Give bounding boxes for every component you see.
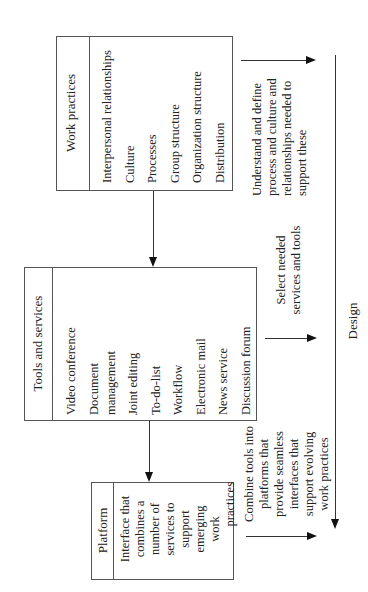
tool-item: To-do-list bbox=[145, 269, 168, 415]
work-practices-list: Interpersonal relationships Culture Proc… bbox=[96, 33, 231, 183]
work-practice-item: Culture bbox=[119, 33, 142, 183]
platform-line: combines a bbox=[133, 482, 148, 576]
annotation-line: provide seamless bbox=[272, 424, 287, 524]
tool-item: Video conference bbox=[60, 269, 83, 415]
platform-description: Interface that combines a number of serv… bbox=[118, 482, 238, 576]
annotation-line: work practices bbox=[317, 424, 332, 524]
platform-divider bbox=[113, 483, 114, 579]
tools-services-divider bbox=[52, 268, 53, 420]
arrow-tools-to-platform-line bbox=[149, 421, 150, 473]
platform-line: practices bbox=[223, 482, 238, 576]
select-annotation: Select needed services and tools bbox=[274, 215, 304, 325]
platform-line: number of bbox=[148, 482, 163, 576]
arrow-combine-line bbox=[246, 536, 308, 537]
design-label: Design bbox=[345, 296, 360, 346]
annotation-line: services and tools bbox=[289, 215, 304, 325]
annotation-line: relationships needed to bbox=[280, 71, 295, 196]
arrow-right-icon bbox=[307, 532, 317, 540]
work-practice-item: Distribution bbox=[209, 33, 232, 183]
tool-item: Joint editing bbox=[122, 269, 145, 415]
platform-line: support bbox=[178, 482, 193, 576]
platform-line: work bbox=[208, 482, 223, 576]
work-practice-item: Organization structure bbox=[186, 33, 209, 183]
tool-item: News service bbox=[212, 269, 235, 415]
design-timeline-line bbox=[335, 55, 336, 521]
tool-item: Workflow bbox=[167, 269, 190, 415]
tool-item: Document bbox=[83, 269, 100, 415]
work-practices-divider bbox=[89, 37, 90, 190]
combine-annotation: Combine tools into platforms that provid… bbox=[242, 424, 332, 524]
annotation-line: Select needed bbox=[274, 215, 289, 325]
work-practice-item: Processes bbox=[141, 33, 164, 183]
platform-line: Interface that bbox=[118, 482, 133, 576]
annotation-line: support evolving bbox=[302, 424, 317, 524]
annotation-line: process and culture and bbox=[265, 71, 280, 196]
work-practice-item: Group structure bbox=[164, 33, 187, 183]
arrow-work-to-tools-line bbox=[153, 191, 154, 258]
platform-title: Platform bbox=[95, 482, 110, 579]
annotation-line: Understand and define bbox=[250, 71, 265, 196]
arrow-select-line bbox=[265, 338, 309, 339]
tool-item: Electronic mail bbox=[190, 269, 213, 415]
work-practices-title: Work practices bbox=[63, 36, 78, 190]
annotation-line: Combine tools into bbox=[242, 424, 257, 524]
tool-item: management bbox=[100, 269, 123, 415]
arrow-down-icon bbox=[331, 519, 339, 529]
work-practice-item: Interpersonal relationships bbox=[96, 33, 119, 183]
platform-line: emerging bbox=[193, 482, 208, 576]
annotation-line: support these bbox=[295, 71, 310, 196]
arrow-right-icon bbox=[306, 56, 316, 64]
arrow-understand-line bbox=[241, 60, 307, 61]
tool-item: Discussion forum bbox=[235, 269, 258, 415]
understand-annotation: Understand and define process and cultur… bbox=[250, 71, 310, 196]
annotation-line: interfaces that bbox=[287, 424, 302, 524]
arrow-down-icon bbox=[149, 257, 157, 267]
arrow-down-icon bbox=[145, 472, 153, 482]
annotation-line: platforms that bbox=[257, 424, 272, 524]
tools-services-title: Tools and services bbox=[30, 267, 45, 420]
platform-line: services to bbox=[163, 482, 178, 576]
arrow-right-icon bbox=[307, 334, 317, 342]
tools-services-list: Video conference Document management Joi… bbox=[60, 269, 257, 415]
